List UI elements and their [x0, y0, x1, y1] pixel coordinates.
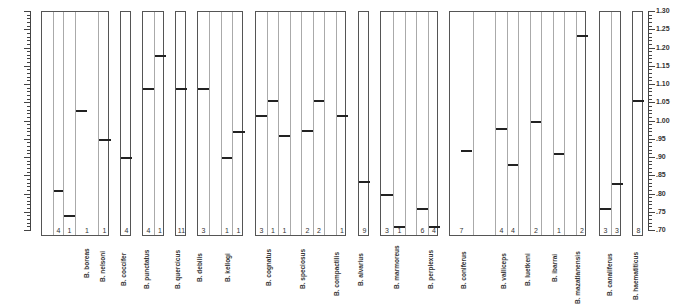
data-column: 4 [507, 12, 518, 235]
tick-mark [27, 183, 31, 184]
mean-marker [256, 115, 267, 117]
tick-mark [648, 62, 652, 63]
mean-marker [143, 88, 154, 90]
data-column: 1 [221, 12, 232, 235]
data-column [324, 12, 336, 235]
sample-count: 3 [612, 227, 622, 234]
species-label: B. punctatus [143, 250, 150, 289]
tick-mark [648, 223, 652, 224]
species-label: B. mazatlanensis [574, 251, 581, 304]
tick-mark [648, 172, 652, 173]
tick-mark [27, 113, 31, 114]
species-label: B. speciosus [299, 249, 306, 289]
sample-count: 1 [268, 227, 278, 234]
species-label: B. valliceps [500, 253, 507, 289]
data-column: 1 [154, 12, 165, 235]
mean-marker [233, 131, 245, 133]
tick-mark [27, 204, 31, 205]
tick-mark [648, 69, 652, 70]
y-tick-label: .80 [656, 190, 666, 198]
sample-count: 11 [176, 227, 187, 234]
data-column: 1 [553, 12, 564, 235]
species-label: B. kellogi [224, 253, 231, 282]
sample-count: 1 [279, 227, 290, 234]
data-column [541, 12, 553, 235]
y-tick-label: .70 [656, 226, 666, 234]
data-column: 1 [232, 12, 244, 235]
y-tick-label: 1.15 [656, 62, 670, 70]
sample-count: 7 [450, 227, 473, 234]
mean-marker [121, 157, 132, 159]
data-column: 1 [63, 12, 75, 235]
tick-mark [27, 164, 31, 165]
tick-mark [27, 40, 31, 41]
mean-marker [176, 88, 187, 90]
data-column: 2 [313, 12, 324, 235]
mean-marker [198, 88, 209, 90]
mean-marker [577, 35, 588, 37]
data-column [405, 12, 416, 235]
tick-mark [648, 161, 652, 162]
sample-count: 1 [222, 227, 232, 234]
species-group-panel: 4 [120, 11, 131, 236]
species-label: B. ibarrai [551, 254, 558, 282]
sample-count: 4 [143, 227, 154, 234]
data-column: 3 [600, 12, 611, 235]
tick-mark [24, 66, 31, 67]
sample-count: 1 [76, 227, 98, 234]
tick-mark [648, 117, 652, 118]
data-column [564, 12, 576, 235]
tick-mark [27, 91, 31, 92]
species-group-panel: 3164 [380, 11, 438, 236]
data-column: 2 [530, 12, 541, 235]
tick-mark [648, 121, 655, 122]
species-label: B. perplexus [427, 250, 434, 289]
tick-mark [27, 153, 31, 154]
data-column: 4 [495, 12, 507, 235]
tick-mark [648, 190, 652, 191]
tick-mark [648, 153, 652, 154]
tick-mark [648, 142, 652, 143]
data-column: 1 [98, 12, 110, 235]
y-tick-label: 1.10 [656, 80, 670, 88]
tick-mark [27, 219, 31, 220]
mean-marker [337, 115, 348, 117]
sample-count: 1 [233, 227, 244, 234]
tick-mark [27, 179, 31, 180]
data-column: 9 [359, 12, 370, 235]
data-column: 2 [301, 12, 313, 235]
sample-count: 4 [54, 227, 63, 234]
tick-mark [648, 219, 652, 220]
y-tick-label: 1.00 [656, 117, 670, 125]
species-label: B. alvarius [357, 253, 364, 286]
tick-mark [27, 15, 31, 16]
tick-mark [648, 48, 655, 49]
sample-count: 3 [256, 227, 267, 234]
tick-mark [27, 190, 31, 191]
data-column: 11 [176, 12, 187, 235]
tick-mark [27, 44, 31, 45]
tick-mark [648, 150, 652, 151]
tick-mark [648, 11, 655, 12]
sample-count: 1 [155, 227, 165, 234]
tick-mark [648, 77, 652, 78]
tick-mark [648, 80, 652, 81]
tick-mark [648, 215, 652, 216]
tick-mark [648, 44, 652, 45]
species-group-panel: 4111 [41, 11, 109, 236]
tick-mark [27, 128, 31, 129]
data-column: 3 [381, 12, 393, 235]
tick-mark [648, 124, 652, 125]
tick-mark [648, 146, 652, 147]
tick-mark [648, 58, 652, 59]
tick-mark [648, 212, 655, 213]
tick-mark [24, 230, 31, 231]
sample-count: 2 [302, 227, 313, 234]
tick-mark [27, 201, 31, 202]
tick-mark [27, 146, 31, 147]
tick-mark [648, 110, 652, 111]
tick-mark [648, 33, 652, 34]
tick-mark [27, 22, 31, 23]
tick-mark [27, 37, 31, 38]
tick-mark [27, 161, 31, 162]
